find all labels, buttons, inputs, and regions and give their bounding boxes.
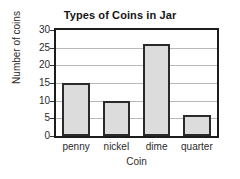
- chart-title: Types of Coins in Jar: [0, 9, 240, 21]
- bar-dime: [143, 44, 170, 136]
- plot-area: [54, 28, 219, 138]
- bar-chart: Types of Coins in Jar Number of coins 05…: [0, 0, 240, 179]
- y-tick-label-25: 25: [16, 43, 50, 53]
- y-tick-label-30: 30: [16, 25, 50, 35]
- bar-nickel: [103, 101, 130, 136]
- x-tick-label-quarter: quarter: [177, 141, 217, 152]
- y-tick-label-5: 5: [16, 113, 50, 123]
- x-tick-label-nickel: nickel: [96, 141, 136, 152]
- y-tick-label-20: 20: [16, 60, 50, 70]
- x-tick-label-penny: penny: [56, 141, 96, 152]
- y-tick-label-0: 0: [16, 131, 50, 141]
- bar-penny: [62, 83, 89, 136]
- y-tick-label-10: 10: [16, 96, 50, 106]
- y-tick-label-15: 15: [16, 78, 50, 88]
- bar-quarter: [183, 115, 210, 136]
- bars-container: [56, 30, 217, 136]
- x-tick-label-dime: dime: [137, 141, 177, 152]
- x-axis-label: Coin: [54, 156, 219, 167]
